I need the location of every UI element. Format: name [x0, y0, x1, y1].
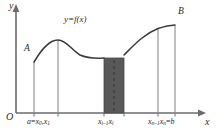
tick-b-letter: b	[171, 117, 175, 126]
x-tick-label-xi: xi–1xi	[98, 118, 114, 127]
x-tick-label-b: xn–1xn=b	[148, 118, 175, 127]
curve-segment-left	[34, 40, 104, 62]
curve-segment-right	[124, 25, 175, 55]
tick-xi-sub: i	[112, 120, 114, 126]
tick-x1-sub: 1	[47, 120, 50, 126]
tick-xim1-sub: i–1	[102, 120, 109, 126]
figure-container: y x O A B y=f(x) a=x0,x1 xi–1xi xn–1xn=b	[0, 0, 216, 139]
x-tick-label-a: a=x0,x1	[27, 118, 50, 127]
tick-xnm1-sub: n–1	[152, 120, 160, 126]
y-axis-label: y	[9, 1, 13, 11]
point-b-label: B	[178, 7, 184, 17]
point-a-label: A	[24, 44, 30, 54]
function-label: y=f(x)	[64, 15, 87, 24]
x-axis-label: x	[205, 117, 209, 127]
origin-label: O	[6, 112, 13, 122]
y-axis-arrow-icon	[13, 4, 20, 12]
